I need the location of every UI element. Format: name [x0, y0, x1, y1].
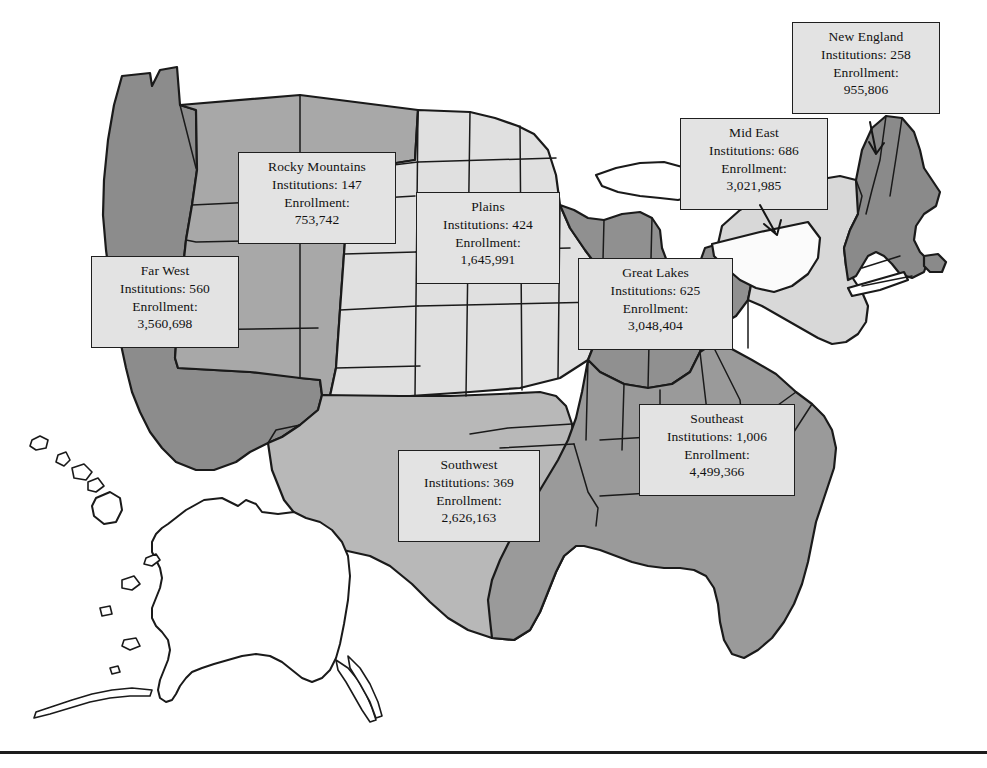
callout-southeast-enrollment-value: 4,499,366: [640, 463, 794, 481]
callout-southwest[interactable]: Southwest Institutions: 369 Enrollment: …: [398, 450, 540, 542]
callout-new-england-enrollment-label: Enrollment:: [793, 64, 939, 82]
callout-great-lakes-title: Great Lakes: [579, 264, 732, 282]
callout-plains-title: Plains: [417, 198, 559, 216]
callout-far-west-enrollment-label: Enrollment:: [92, 298, 238, 316]
callout-far-west-institutions: Institutions: 560: [92, 280, 238, 298]
callout-far-west-enrollment-value: 3,560,698: [92, 315, 238, 333]
callout-plains-enrollment-label: Enrollment:: [417, 234, 559, 252]
callout-mid-east-title: Mid East: [681, 124, 827, 142]
callout-southwest-title: Southwest: [399, 456, 539, 474]
bottom-horizontal-rule: [0, 751, 987, 754]
callout-far-west-title: Far West: [92, 262, 238, 280]
callout-mid-east-enrollment-value: 3,021,985: [681, 177, 827, 195]
callout-rocky-mountains-title: Rocky Mountains: [239, 158, 395, 176]
cape-cod-detail: [924, 254, 946, 272]
hawaii-inset: [30, 436, 122, 524]
callout-rocky-mountains-institutions: Institutions: 147: [239, 176, 395, 194]
callout-southeast[interactable]: Southeast Institutions: 1,006 Enrollment…: [639, 404, 795, 496]
callout-plains[interactable]: Plains Institutions: 424 Enrollment: 1,6…: [416, 192, 560, 284]
callout-southwest-institutions: Institutions: 369: [399, 474, 539, 492]
alaska-inset: [34, 498, 382, 722]
callout-rocky-mountains-enrollment-label: Enrollment:: [239, 194, 395, 212]
callout-new-england[interactable]: New England Institutions: 258 Enrollment…: [792, 22, 940, 114]
callout-great-lakes-enrollment-value: 3,048,404: [579, 317, 732, 335]
us-regions-map: [0, 0, 987, 768]
callout-new-england-institutions: Institutions: 258: [793, 46, 939, 64]
callout-mid-east-enrollment-label: Enrollment:: [681, 160, 827, 178]
callout-plains-enrollment-value: 1,645,991: [417, 251, 559, 269]
callout-southeast-institutions: Institutions: 1,006: [640, 428, 794, 446]
callout-southeast-title: Southeast: [640, 410, 794, 428]
callout-mid-east[interactable]: Mid East Institutions: 686 Enrollment: 3…: [680, 118, 828, 210]
callout-great-lakes-enrollment-label: Enrollment:: [579, 300, 732, 318]
callout-southwest-enrollment-label: Enrollment:: [399, 492, 539, 510]
callout-plains-institutions: Institutions: 424: [417, 216, 559, 234]
callout-far-west[interactable]: Far West Institutions: 560 Enrollment: 3…: [91, 256, 239, 348]
callout-great-lakes-institutions: Institutions: 625: [579, 282, 732, 300]
callout-rocky-mountains[interactable]: Rocky Mountains Institutions: 147 Enroll…: [238, 152, 396, 244]
callout-new-england-title: New England: [793, 28, 939, 46]
callout-great-lakes[interactable]: Great Lakes Institutions: 625 Enrollment…: [578, 258, 733, 350]
callout-southeast-enrollment-label: Enrollment:: [640, 446, 794, 464]
callout-new-england-enrollment-value: 955,806: [793, 81, 939, 99]
map-page: New England Institutions: 258 Enrollment…: [0, 0, 987, 768]
callout-southwest-enrollment-value: 2,626,163: [399, 509, 539, 527]
callout-rocky-mountains-enrollment-value: 753,742: [239, 211, 395, 229]
callout-mid-east-institutions: Institutions: 686: [681, 142, 827, 160]
